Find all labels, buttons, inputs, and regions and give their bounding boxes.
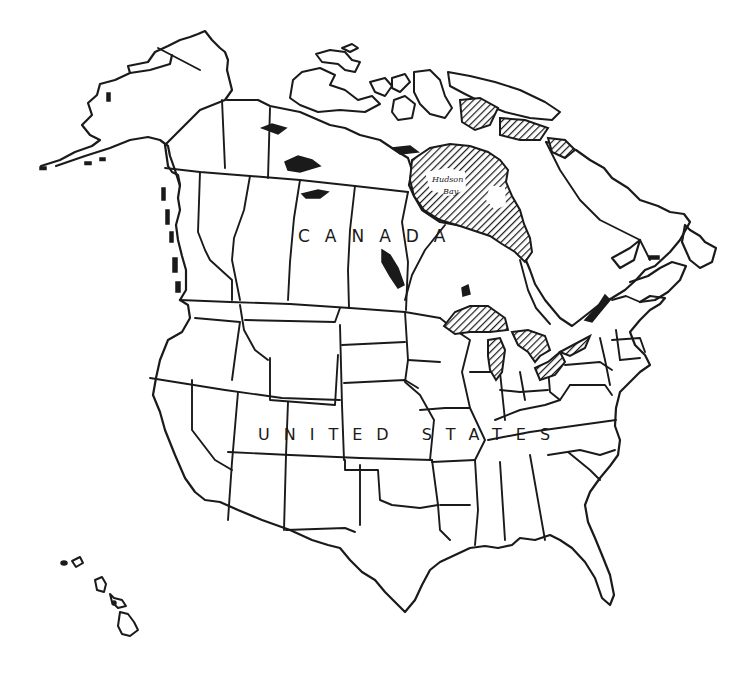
united-states-label: UNITED STATES	[258, 425, 564, 444]
alaska	[40, 31, 228, 186]
great-lakes	[444, 295, 610, 380]
bay-label: Bay	[442, 187, 459, 196]
hudson-label: Hudson	[431, 175, 463, 184]
canada-label: CANADA	[298, 226, 460, 246]
bc-coast	[162, 166, 186, 300]
hawaii	[61, 557, 138, 636]
north-america-map: Hudson Bay	[0, 0, 752, 682]
arctic-archipelago	[262, 44, 575, 172]
